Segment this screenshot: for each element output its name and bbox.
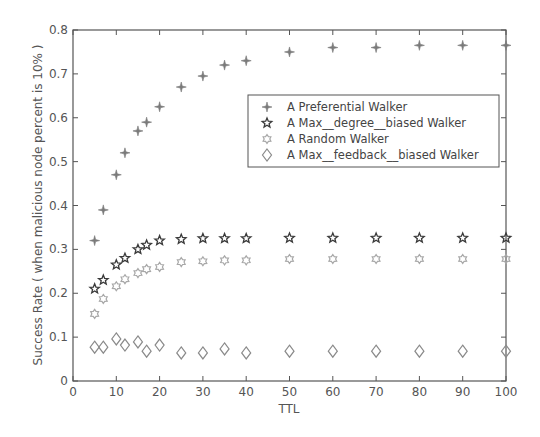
data-point [242,256,250,265]
data-point [220,233,230,242]
scatter-chart: 010203040506070809010000.10.20.30.40.50.… [0,0,540,437]
data-point [111,170,121,180]
data-point [220,343,229,355]
data-series [90,40,511,359]
legend-label: A Preferential Walker [287,100,408,114]
data-point [133,336,142,348]
y-tick-label: 0.6 [49,111,68,125]
data-point [134,269,142,278]
y-tick-label: 0.1 [49,330,68,344]
axis-ticks: 010203040506070809010000.10.20.30.40.50.… [49,23,518,399]
data-point [285,233,295,242]
data-point [120,253,130,262]
series-4 [90,333,510,359]
data-point [199,257,207,266]
x-tick-label: 80 [412,385,427,399]
data-point [91,309,99,318]
data-point [99,275,109,284]
data-point [133,244,143,253]
data-point [415,345,424,357]
data-point [120,148,130,158]
x-tick-label: 90 [455,385,470,399]
data-point [90,284,100,293]
x-tick-label: 70 [368,385,383,399]
y-tick-label: 0.4 [49,199,68,213]
series-2 [90,233,511,293]
data-point [329,255,337,264]
data-point [371,43,381,53]
data-point [176,234,186,243]
x-tick-label: 60 [325,385,340,399]
data-point [112,333,121,345]
data-point [121,275,129,284]
data-point [90,341,99,353]
data-point [372,255,380,264]
x-axis-label: TTL [277,402,299,416]
data-point [285,345,294,357]
data-point [142,117,152,127]
data-point [176,82,186,92]
x-tick-label: 10 [109,385,124,399]
data-point [155,102,165,112]
x-tick-label: 30 [195,385,210,399]
data-point [242,347,251,359]
x-tick-label: 100 [495,385,518,399]
data-point [328,345,337,357]
legend-item: A Max__feedback__biased Walker [263,148,479,162]
data-point [501,40,511,50]
x-tick-label: 40 [239,385,254,399]
series-3 [91,255,510,319]
legend-item: A Max__degree__biased Walker [262,116,466,130]
data-point [156,262,164,271]
data-point [416,255,424,264]
data-point [458,40,468,50]
data-point [414,40,424,50]
data-point [241,233,251,242]
data-point [112,260,122,269]
data-point [143,265,151,274]
data-point [285,47,295,57]
data-point [112,282,120,291]
y-tick-label: 0.5 [49,155,68,169]
data-point [198,347,207,359]
data-point [458,345,467,357]
y-tick-label: 0.7 [49,67,68,81]
data-point [459,255,467,264]
data-point [120,339,129,351]
data-point [133,126,143,136]
x-tick-label: 20 [152,385,167,399]
data-point [198,233,208,242]
plot-border [73,30,506,381]
data-point [371,233,381,242]
data-point [328,43,338,53]
plot-area [73,30,506,381]
y-tick-label: 0.2 [49,286,68,300]
data-point [220,60,230,70]
data-point [221,256,229,265]
data-point [99,341,108,353]
x-tick-label: 0 [69,385,77,399]
data-point [372,345,381,357]
x-tick-label: 50 [282,385,297,399]
y-tick-label: 0.3 [49,242,68,256]
data-point [155,339,164,351]
legend-label: A Max__degree__biased Walker [287,116,466,130]
data-point [198,71,208,81]
data-point [328,233,338,242]
data-point [177,258,185,267]
data-point [241,56,251,66]
y-axis-label: Success Rate ( when malicious node perce… [31,45,45,366]
data-point [177,347,186,359]
data-point [155,236,165,245]
data-point [98,205,108,215]
data-point [142,345,151,357]
legend-label: A Max__feedback__biased Walker [287,148,479,162]
data-point [415,233,425,242]
data-point [99,294,107,303]
y-tick-label: 0 [60,374,68,388]
legend-label: A Random Walker [287,132,389,146]
data-point [286,255,294,264]
y-tick-label: 0.8 [49,23,68,37]
data-point [90,236,100,246]
legend: A Preferential WalkerA Max__degree__bias… [248,95,499,167]
